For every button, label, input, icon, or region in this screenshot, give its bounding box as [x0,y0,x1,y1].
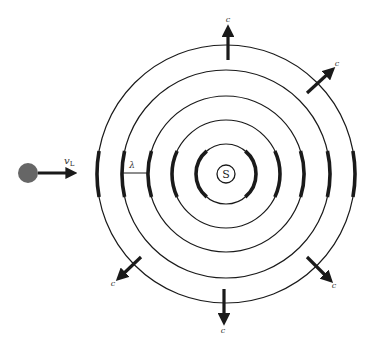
wave-crest-right [275,151,280,197]
wave-speed-arrow-lower-right [307,257,329,279]
wavelength-indicator: λ [122,160,148,173]
listener-velocity-label: vL [64,155,75,168]
source-label: S [222,168,230,181]
wave-crest-right [245,151,256,197]
wave-crest-right [327,151,330,197]
listener: vL [18,155,75,183]
wave-crest-left [172,151,177,197]
wave-speed-label: c [111,279,116,288]
wave-crest-left [196,151,207,197]
wave-crest-left [148,151,151,197]
wavelength-label: λ [128,160,135,170]
wave-speed-label: c [332,281,337,290]
listener-dot [18,163,38,183]
wave-speed-label: c [335,59,340,68]
wave-speed-label: c [226,15,231,24]
wave-speed-arrow-upper-right [307,71,331,93]
wave-crest-left [122,151,125,197]
wave-speed-label: c [221,326,226,335]
doppler-diagram: S λ vL ccccc [0,0,368,344]
source: S [217,165,235,183]
wave-crest-left [97,151,99,197]
wave-crest-right [353,151,355,197]
wave-crest-right [301,151,304,197]
